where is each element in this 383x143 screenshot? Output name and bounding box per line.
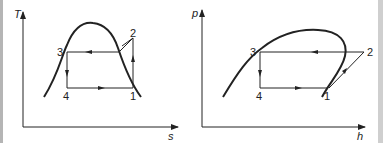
arrow-icon <box>65 70 69 77</box>
process-1-2 <box>329 52 364 88</box>
point-4-label: 4 <box>63 90 69 102</box>
arrow-icon <box>85 50 92 54</box>
point-3-label: 3 <box>57 46 63 58</box>
point-1-label: 1 <box>130 90 136 102</box>
p-axis-label: p <box>191 7 198 19</box>
arrow-icon <box>131 55 135 62</box>
ph-diagram: p h 3 2 4 1 <box>191 7 373 142</box>
saturation-curve <box>223 30 346 97</box>
h-axis-label: h <box>357 130 363 142</box>
point-2-label: 2 <box>367 46 373 58</box>
point-2-label: 2 <box>130 27 136 39</box>
arrow-icon <box>311 50 318 54</box>
point-4-label: 4 <box>256 90 262 102</box>
saturation-dome <box>44 23 141 97</box>
arrow-icon <box>258 70 262 77</box>
arrow-icon <box>295 86 302 90</box>
leader-2b <box>122 38 133 46</box>
cycle-diagrams: T s 3 2 4 1 p h 3 2 4 1 <box>0 0 383 143</box>
point-1-label: 1 <box>324 90 330 102</box>
point-3-label: 3 <box>250 46 256 58</box>
arrow-icon <box>342 68 347 74</box>
s-axis-label: s <box>168 130 174 142</box>
arrow-icon <box>98 86 105 90</box>
t-axis-label: T <box>14 8 22 20</box>
ts-diagram: T s 3 2 4 1 <box>14 8 178 142</box>
